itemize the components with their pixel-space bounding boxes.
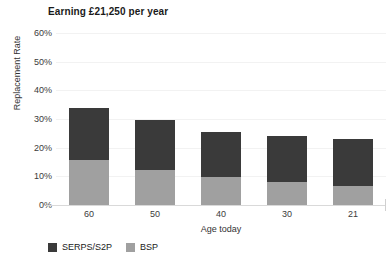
bar-group[interactable] <box>333 33 373 205</box>
bar-group[interactable] <box>267 33 307 205</box>
x-axis-title: Age today <box>56 224 386 234</box>
legend-label: BSP <box>140 242 158 252</box>
bar-segment-serps[interactable] <box>267 136 307 182</box>
bar-segment-serps[interactable] <box>333 139 373 186</box>
bar-stack[interactable] <box>267 136 307 205</box>
bar-stack[interactable] <box>201 132 241 205</box>
bar-stack[interactable] <box>135 120 175 205</box>
bar-segment-bsp[interactable] <box>267 182 307 205</box>
chart-legend: SERPS/S2PBSP <box>48 242 158 252</box>
bar-segment-bsp[interactable] <box>135 170 175 205</box>
x-tick-label: 30 <box>267 209 307 219</box>
bar-segment-bsp[interactable] <box>201 177 241 205</box>
legend-item[interactable]: BSP <box>126 242 158 252</box>
bar-group[interactable] <box>135 33 175 205</box>
y-tick-label: 10% <box>6 171 52 181</box>
axis-end-tick <box>385 199 386 211</box>
y-tick-label: 20% <box>6 143 52 153</box>
x-tick-label: 50 <box>135 209 175 219</box>
bar-segment-serps[interactable] <box>201 132 241 177</box>
legend-item[interactable]: SERPS/S2P <box>48 242 112 252</box>
y-tick-label: 60% <box>6 28 52 38</box>
y-tick-label: 40% <box>6 85 52 95</box>
x-axis-line <box>46 205 386 206</box>
x-tick-label: 21 <box>333 209 373 219</box>
chart-container: Earning £21,250 per year Replacement Rat… <box>0 0 392 263</box>
y-axis-tick-labels: 0%10%20%30%40%50%60% <box>0 33 52 205</box>
bar-stack[interactable] <box>69 108 109 205</box>
plot-area <box>56 33 386 205</box>
chart-title: Earning £21,250 per year <box>48 6 168 17</box>
bar-stack[interactable] <box>333 139 373 205</box>
x-tick-label: 60 <box>69 209 109 219</box>
y-tick-label: 50% <box>6 57 52 67</box>
legend-swatch-icon <box>126 243 135 252</box>
bar-segment-bsp[interactable] <box>333 186 373 205</box>
bar-segment-serps[interactable] <box>69 108 109 160</box>
y-tick-label: 30% <box>6 114 52 124</box>
bar-group[interactable] <box>201 33 241 205</box>
legend-swatch-icon <box>48 243 57 252</box>
bar-group[interactable] <box>69 33 109 205</box>
x-tick-label: 40 <box>201 209 241 219</box>
bar-segment-bsp[interactable] <box>69 160 109 205</box>
legend-label: SERPS/S2P <box>62 242 112 252</box>
bar-segment-serps[interactable] <box>135 120 175 170</box>
